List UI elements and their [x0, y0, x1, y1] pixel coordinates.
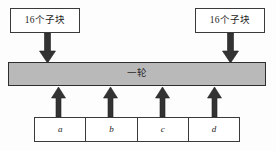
- subblock-source-label-right: 16个子块: [210, 16, 251, 26]
- down-arrow-right-icon: [222, 33, 239, 63]
- up-arrow-b-icon: [103, 87, 118, 117]
- subblock-row: a b c d: [34, 117, 240, 142]
- subblock-source-box-right: 16个子块: [195, 8, 265, 33]
- round-bar-label: 一轮: [127, 69, 148, 79]
- subblock-cell-d: d: [189, 118, 239, 141]
- up-arrow-a-icon: [51, 87, 66, 117]
- round-bar: 一轮: [8, 62, 266, 86]
- subblock-cell-b-label: b: [109, 125, 114, 134]
- encryption-round-diagram: 16个子块 16个子块 一轮: [0, 0, 276, 151]
- subblock-cell-d-label: d: [212, 125, 217, 134]
- subblock-source-box-left: 16个子块: [10, 8, 80, 33]
- subblock-source-label-left: 16个子块: [25, 16, 66, 26]
- subblock-cell-b: b: [86, 118, 137, 141]
- subblock-cell-c-label: c: [161, 125, 165, 134]
- subblock-cell-c: c: [138, 118, 189, 141]
- up-arrow-d-icon: [207, 87, 222, 117]
- subblock-cell-a: a: [35, 118, 86, 141]
- up-arrow-c-icon: [155, 87, 170, 117]
- down-arrow-left-icon: [39, 33, 56, 63]
- subblock-cell-a-label: a: [58, 125, 63, 134]
